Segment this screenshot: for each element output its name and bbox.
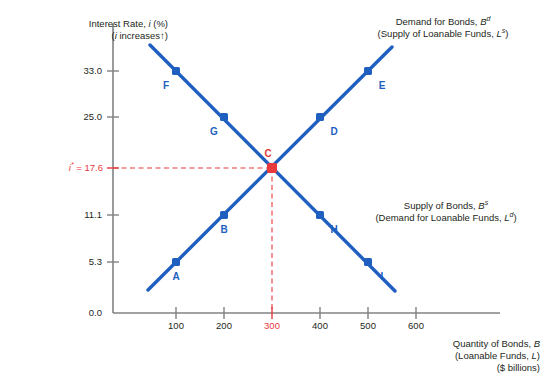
x-tick-label-400: 400 xyxy=(300,320,340,331)
point-D-marker xyxy=(316,113,324,121)
supply-curve-label-line2: (Demand for Loanable Funds, Ld) xyxy=(346,212,546,224)
origin-label: 0.0 xyxy=(42,307,102,318)
y-axis-title: Interest Rate, i (%) (i increases↑) xyxy=(18,18,168,42)
equilibrium-rate-label: i* = 17.6 xyxy=(3,162,103,173)
point-label-C: C xyxy=(258,148,278,159)
demand-curve-label-line1: Demand for Bonds, Bd xyxy=(340,16,546,28)
point-label-I: I xyxy=(372,271,392,282)
y-tick-label-5-3: 5.3 xyxy=(42,256,102,267)
demand-curve-label: Demand for Bonds, Bd (Supply of Loanable… xyxy=(340,16,546,40)
point-I-marker xyxy=(364,258,372,266)
point-label-A: A xyxy=(166,271,186,282)
point-label-D: D xyxy=(324,126,344,137)
x-axis-title-line3: ($ billions) xyxy=(330,362,540,374)
point-label-H: H xyxy=(324,224,344,235)
x-tick-label-500: 500 xyxy=(348,320,388,331)
supply-curve-label-line1: Supply of Bonds, Bs xyxy=(346,200,546,212)
point-A-marker xyxy=(172,258,180,266)
supply-curve-label: Supply of Bonds, Bs (Demand for Loanable… xyxy=(346,200,546,224)
x-axis-title-line1: Quantity of Bonds, B xyxy=(330,338,540,350)
x-tick-label-600: 600 xyxy=(396,320,436,331)
x-tick-label-300: 300 xyxy=(252,320,292,331)
x-axis-title-line2: (Loanable Funds, L) xyxy=(330,350,540,362)
point-F-marker xyxy=(172,67,180,75)
point-label-B: B xyxy=(214,224,234,235)
x-tick-label-100: 100 xyxy=(156,320,196,331)
y-tick-label-25: 25.0 xyxy=(42,111,102,122)
point-label-E: E xyxy=(372,80,392,91)
demand-curve-label-line2: (Supply of Loanable Funds, Ls) xyxy=(340,28,546,40)
y-axis-title-line1: Interest Rate, i (%) xyxy=(18,18,168,30)
point-label-F: F xyxy=(156,80,176,91)
point-E-marker xyxy=(364,67,372,75)
y-tick-label-33: 33.0 xyxy=(42,65,102,76)
x-tick-label-200: 200 xyxy=(204,320,244,331)
point-G-marker xyxy=(220,113,228,121)
point-label-G: G xyxy=(204,126,224,137)
bond-market-chart: Interest Rate, i (%) (i increases↑) Quan… xyxy=(0,0,552,388)
point-C-marker xyxy=(267,163,277,173)
point-H-marker xyxy=(316,211,324,219)
y-axis-title-line2: (i increases↑) xyxy=(18,30,168,42)
y-tick-label-11-1: 11.1 xyxy=(42,209,102,220)
x-axis-title: Quantity of Bonds, B (Loanable Funds, L)… xyxy=(330,338,540,374)
point-B-marker xyxy=(220,211,228,219)
